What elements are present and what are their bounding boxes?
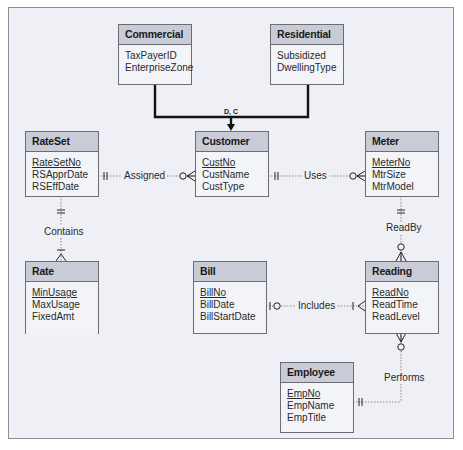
attribute: BillDate — [200, 299, 266, 311]
entity-customer[interactable]: Customer CustNo CustName CustType — [195, 131, 269, 197]
primary-key-attribute: EmpNo — [287, 388, 353, 400]
attribute: MaxUsage — [32, 299, 98, 311]
relationship-includes: Includes — [296, 300, 337, 312]
generalization-label: D, C — [224, 108, 238, 116]
entity-title: Employee — [281, 363, 353, 383]
generalization-arrow-icon — [227, 124, 235, 131]
entity-title: Customer — [196, 132, 268, 152]
entity-rate[interactable]: Rate MinUsage MaxUsage FixedAmt — [25, 261, 99, 334]
entity-title: Bill — [194, 262, 266, 282]
relationship-assigned: Assigned — [122, 170, 167, 182]
attribute: MtrSize — [372, 169, 438, 181]
entity-meter[interactable]: Meter MeterNo MtrSize MtrModel — [365, 131, 439, 197]
primary-key-attribute: CustNo — [202, 157, 268, 169]
attribute: ReadLevel — [372, 311, 438, 323]
entity-commercial[interactable]: Commercial TaxPayerID EnterpriseZone — [118, 24, 192, 85]
generalization-lines — [155, 84, 308, 126]
entity-title: Reading — [366, 262, 438, 282]
entity-employee[interactable]: Employee EmpNo EmpName EmpTitle — [280, 362, 354, 433]
attribute: RSEffDate — [32, 181, 98, 193]
entity-title: Rate — [26, 262, 98, 282]
attribute: RSApprDate — [32, 169, 98, 181]
attribute: FixedAmt — [32, 311, 98, 323]
entity-title: Commercial — [119, 25, 191, 45]
attribute: EmpTitle — [287, 412, 353, 424]
primary-key-attribute: ReadNo — [372, 287, 438, 299]
entity-bill[interactable]: Bill BillNo BillDate BillStartDate — [193, 261, 267, 334]
entity-title: Meter — [366, 132, 438, 152]
entity-title: Residential — [271, 25, 343, 45]
relationship-performs: Performs — [382, 372, 427, 384]
entity-residential[interactable]: Residential Subsidized DwellingType — [270, 24, 344, 85]
attribute: CustType — [202, 181, 268, 193]
entity-reading[interactable]: Reading ReadNo ReadTime ReadLevel — [365, 261, 439, 334]
attribute: EmpName — [287, 400, 353, 412]
primary-key-attribute: BillNo — [200, 287, 266, 299]
primary-key-attribute: MeterNo — [372, 157, 438, 169]
attribute: ReadTime — [372, 299, 438, 311]
attribute: Subsidized — [277, 50, 343, 62]
attribute: EnterpriseZone — [125, 62, 191, 74]
primary-key-attribute: MinUsage — [32, 287, 98, 299]
attribute: CustName — [202, 169, 268, 181]
attribute: TaxPayerID — [125, 50, 191, 62]
attribute: DwellingType — [277, 62, 343, 74]
attribute: BillStartDate — [200, 311, 266, 323]
entity-rateset[interactable]: RateSet RateSetNo RSApprDate RSEffDate — [25, 131, 99, 197]
attribute: MtrModel — [372, 181, 438, 193]
relationship-contains: Contains — [42, 226, 85, 238]
entity-title: RateSet — [26, 132, 98, 152]
primary-key-attribute: RateSetNo — [32, 157, 98, 169]
relationship-readby: ReadBy — [384, 222, 424, 234]
relationship-uses: Uses — [302, 170, 329, 182]
